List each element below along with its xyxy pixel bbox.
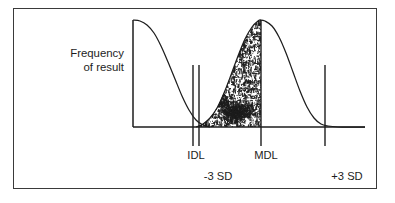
y-axis-label-line1: Frequency <box>70 47 124 59</box>
figure-root: Frequency of result IDL MDL -3 SD +3 SD <box>0 0 395 203</box>
stippled-area <box>194 19 264 130</box>
tick-label-plus-3-sd: +3 SD <box>331 170 362 182</box>
tick-label-idl: IDL <box>187 149 204 161</box>
tick-label-mdl: MDL <box>254 149 278 161</box>
tick-label-minus-3-sd: -3 SD <box>204 170 233 182</box>
distribution-plot: Frequency of result IDL MDL -3 SD +3 SD <box>0 0 395 203</box>
y-axis-label-line2: of result <box>83 61 124 73</box>
